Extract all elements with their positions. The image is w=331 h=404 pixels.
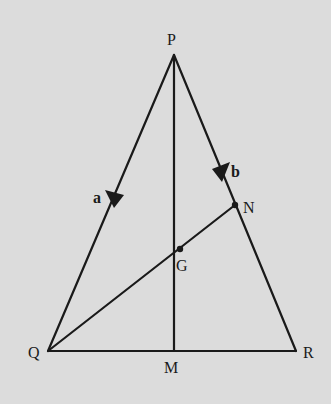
label-r: R <box>303 345 314 361</box>
label-n: N <box>243 200 255 216</box>
vector-label-b: b <box>231 164 240 180</box>
point-g <box>177 246 183 252</box>
segment-qn <box>48 205 235 351</box>
vector-label-a: a <box>93 190 101 206</box>
point-n <box>232 202 238 208</box>
label-m: M <box>164 360 178 376</box>
label-q: Q <box>28 345 40 361</box>
triangle-diagram: P Q R M N G a b <box>0 0 331 404</box>
label-p: P <box>167 32 176 48</box>
arrow-a-icon <box>105 190 124 208</box>
side-pq <box>48 55 174 351</box>
arrow-b-icon <box>212 162 230 182</box>
label-g: G <box>176 258 188 274</box>
diagram-lines <box>0 0 331 404</box>
